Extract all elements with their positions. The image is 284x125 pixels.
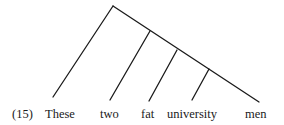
word-two: two [100,107,119,121]
tree-branches [53,6,259,102]
branch-fat [149,50,177,101]
spine-branch-men [113,6,259,102]
word-labels: (15) These two fat university men [12,107,267,121]
word-these: These [45,107,75,121]
word-men: men [245,107,267,121]
word-university: university [167,107,218,121]
word-fat: fat [141,107,155,121]
branch-two [110,31,150,100]
branch-university [192,69,209,100]
branch-these [53,6,113,97]
example-number: (15) [12,107,33,121]
syntax-tree-diagram: (15) These two fat university men [0,0,284,125]
